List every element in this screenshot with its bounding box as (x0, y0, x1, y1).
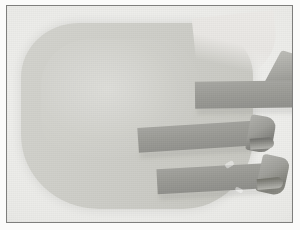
pad-highlight (41, 39, 217, 179)
photograph (0, 0, 300, 230)
photo-print-border (6, 5, 293, 223)
strap-top (195, 80, 293, 109)
strap-middle-curl-lip (250, 137, 275, 150)
